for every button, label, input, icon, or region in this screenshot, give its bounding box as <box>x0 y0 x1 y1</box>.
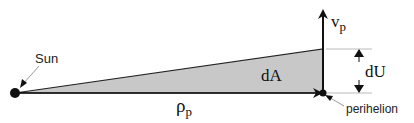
sun-dot <box>10 88 20 98</box>
area-label: dA <box>261 66 283 85</box>
sun-label: Sun <box>35 51 58 66</box>
sun-pointer-line <box>23 66 39 84</box>
velocity-label: vp <box>331 12 346 34</box>
radius-label: ρp <box>176 95 192 119</box>
perihelion-pointer-head <box>325 95 333 101</box>
diagram-canvas: Sun vp dA dU ρp perihelion <box>0 0 414 123</box>
displacement-label: dU <box>365 62 386 81</box>
perihelion-label: perihelion <box>346 102 398 116</box>
